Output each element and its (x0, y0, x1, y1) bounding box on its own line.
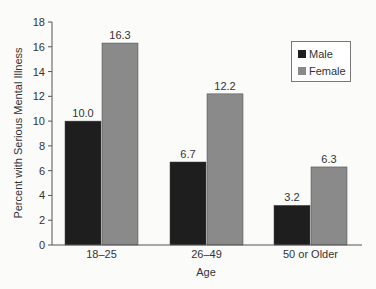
bar-female (207, 94, 243, 245)
y-tick-label: 4 (39, 189, 45, 201)
bar-female (102, 43, 138, 245)
y-axis: 024681012141618 (33, 16, 52, 251)
legend: Male Female (291, 41, 351, 82)
bar-male (274, 205, 310, 245)
y-tick-label: 18 (33, 16, 45, 28)
bar-value-label: 3.2 (284, 191, 299, 203)
legend-label-male: Male (309, 48, 333, 60)
bar-value-label: 6.7 (180, 148, 195, 160)
x-tick-label: 26–49 (191, 248, 222, 260)
x-tick-label: 50 or Older (283, 248, 338, 260)
bar-male (170, 162, 206, 245)
bar-female (311, 167, 347, 245)
y-tick-label: 2 (39, 214, 45, 226)
x-tick-label: 18–25 (86, 248, 117, 260)
legend-item-female: Female (298, 65, 346, 77)
bar-value-label: 16.3 (109, 29, 130, 41)
bar-male (65, 121, 101, 245)
male-swatch-icon (298, 50, 306, 58)
bar-value-label: 12.2 (214, 80, 235, 92)
y-tick-label: 0 (39, 239, 45, 251)
y-axis-label: Percent with Serious Mental Illness (12, 47, 24, 219)
bar-value-label: 6.3 (321, 153, 336, 165)
y-tick-label: 12 (33, 90, 45, 102)
x-axis-label: Age (196, 266, 216, 278)
legend-label-female: Female (309, 65, 346, 77)
female-swatch-icon (298, 67, 306, 75)
legend-item-male: Male (298, 48, 333, 60)
y-tick-label: 8 (39, 140, 45, 152)
y-tick-label: 14 (33, 66, 45, 78)
bar-value-label: 10.0 (72, 107, 93, 119)
x-axis: 18–2526–4950 or Older (52, 245, 362, 260)
y-tick-label: 16 (33, 41, 45, 53)
y-tick-label: 10 (33, 115, 45, 127)
y-tick-label: 6 (39, 165, 45, 177)
